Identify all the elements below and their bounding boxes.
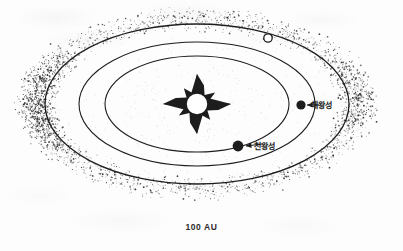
uranus-marker xyxy=(233,141,244,152)
solar-system-diagram xyxy=(0,0,403,251)
sun-core xyxy=(186,93,208,115)
neptune-marker xyxy=(296,100,305,109)
figure-page: 해왕성 천왕성 100 AU xyxy=(0,0,403,251)
uranus-label: 천왕성 xyxy=(254,140,276,151)
neptune-label: 해왕성 xyxy=(311,99,333,110)
sun-star-glyph xyxy=(163,74,231,134)
pluto-marker xyxy=(264,34,272,42)
planet-markers xyxy=(233,34,319,152)
scale-caption: 100 AU xyxy=(0,222,403,232)
